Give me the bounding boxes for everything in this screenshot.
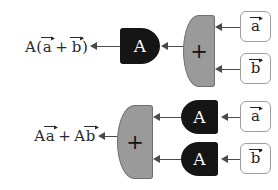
result-prefix: A(	[25, 40, 42, 55]
vector-b-label-2: b	[85, 129, 96, 144]
gate-A-top[interactable]: A	[120, 28, 160, 64]
wire-A1-to-sum	[160, 117, 182, 119]
gate-A-top-glyph: A	[134, 37, 146, 54]
gate-A-bottom-1-glyph: A	[193, 108, 205, 125]
gate-A-bottom-1[interactable]: A	[181, 100, 218, 134]
vector-b-label: b	[71, 40, 82, 55]
wire-b-top	[222, 69, 241, 71]
arrow-a-top	[215, 23, 222, 31]
result-operator: +	[52, 40, 71, 55]
linearity-diagram: A(a+b) A + a b Aa+Ab	[0, 0, 278, 190]
gate-A-bottom-2-glyph: A	[193, 150, 205, 167]
terminal-a-top[interactable]: a	[240, 11, 271, 42]
arrow-A1-to-sum	[153, 113, 160, 121]
gate-plus-top-glyph: +	[190, 40, 208, 61]
diagram-row-top: A(a+b) A + a b	[0, 0, 278, 95]
vector-a-label: a	[42, 40, 52, 55]
result-prefix-2: A	[34, 129, 45, 144]
arrow-output-top	[90, 42, 97, 50]
terminal-b-bottom-label: b	[250, 151, 261, 166]
terminal-a-bottom-label: a	[251, 109, 261, 124]
result-label-bottom: Aa+Ab	[4, 125, 96, 147]
arrow-sum-to-A-top	[161, 42, 168, 50]
vector-a-label-2: a	[45, 129, 55, 144]
arrow-a-bottom	[221, 113, 228, 121]
terminal-b-top-label: b	[250, 61, 261, 76]
arrow-b-top	[215, 65, 222, 73]
gate-A-bottom-2[interactable]: A	[181, 142, 218, 176]
result-prefix-3: A	[74, 129, 85, 144]
gate-plus-top[interactable]: +	[183, 15, 215, 87]
terminal-a-top-label: a	[251, 19, 261, 34]
result-operator-2: +	[55, 129, 74, 144]
arrow-A2-to-sum	[153, 155, 160, 163]
terminal-b-bottom[interactable]: b	[240, 143, 271, 174]
diagram-row-bottom: Aa+Ab + A A a b	[0, 95, 278, 190]
wire-output-top	[97, 46, 121, 48]
terminal-b-top[interactable]: b	[240, 53, 271, 84]
result-suffix: )	[82, 40, 88, 55]
arrow-output-bottom	[98, 132, 105, 140]
arrow-b-bottom	[221, 155, 228, 163]
wire-sum-to-A-top	[168, 46, 184, 48]
wire-a-top	[222, 27, 241, 29]
terminal-a-bottom[interactable]: a	[240, 101, 271, 132]
gate-plus-bottom-glyph: +	[126, 131, 144, 152]
result-label-top: A(a+b)	[4, 36, 88, 58]
gate-plus-bottom[interactable]: +	[117, 105, 153, 179]
wire-A2-to-sum	[160, 159, 182, 161]
